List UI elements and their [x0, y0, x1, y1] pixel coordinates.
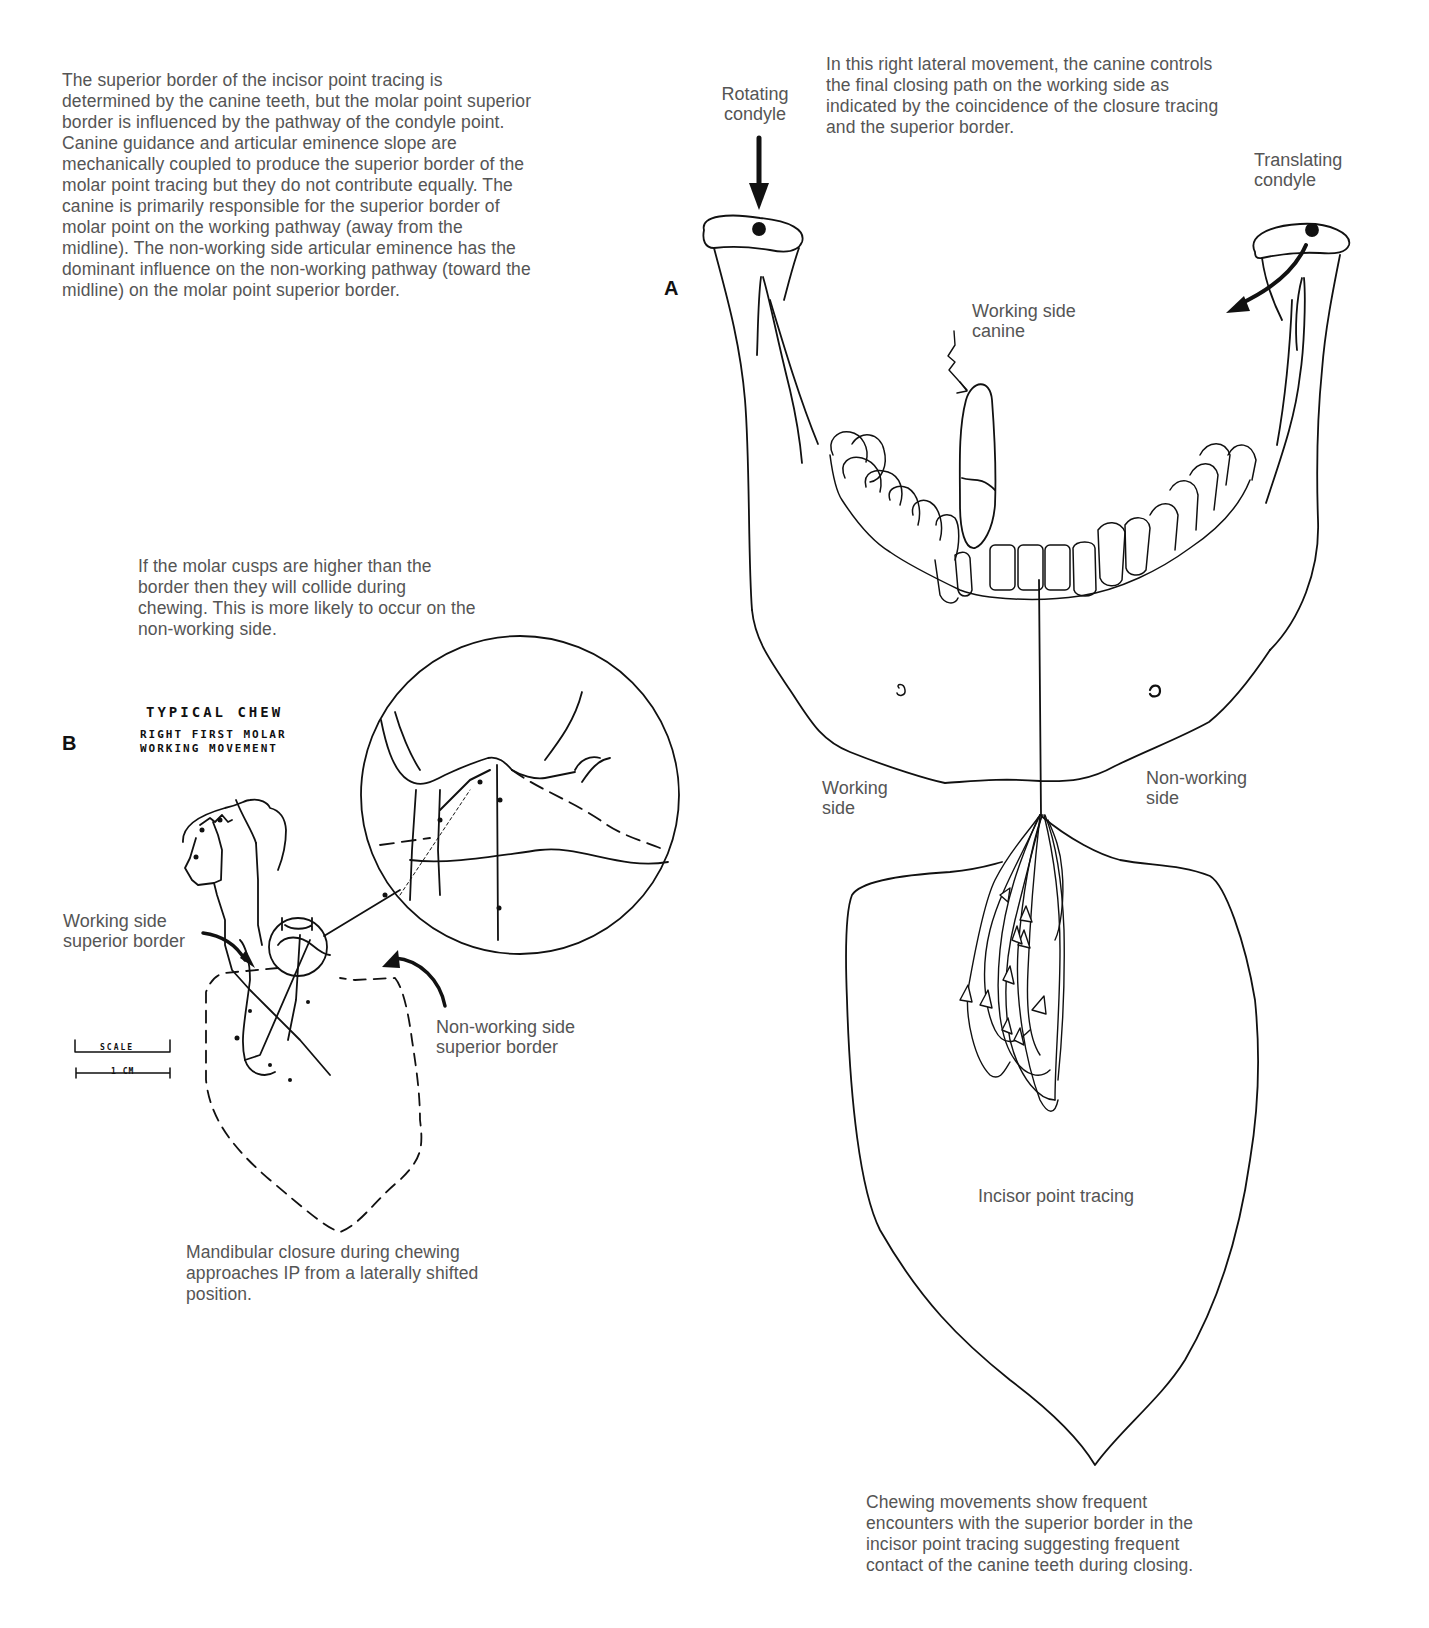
midline	[1039, 580, 1041, 815]
magnifier-connector-line	[324, 890, 400, 936]
lower-teeth	[830, 432, 1256, 603]
incisor-point-tracing-envelope	[846, 815, 1258, 1465]
scale-bar	[75, 1040, 170, 1078]
molar-tracing-drawing	[75, 636, 679, 1232]
rotating-condyle-arrow-icon	[749, 138, 769, 210]
working-superior-border-arrow-icon	[203, 933, 255, 968]
right-mental-foramen	[1150, 686, 1160, 697]
translating-condyle-point	[1306, 224, 1318, 236]
magnified-molar-view	[361, 636, 679, 954]
working-side-canine-tooth	[960, 384, 996, 548]
canine-pointer-arrow-icon	[948, 331, 967, 390]
non-working-superior-border-arrow-icon	[382, 950, 445, 1006]
left-condyle	[703, 216, 802, 252]
mandible-drawing	[703, 138, 1349, 815]
molar-envelope-dashed	[206, 968, 421, 1232]
chewing-closure-tracings	[960, 815, 1064, 1111]
diagram-canvas	[0, 0, 1429, 1628]
rotating-condyle-point	[753, 223, 765, 235]
left-mental-foramen	[897, 685, 905, 696]
